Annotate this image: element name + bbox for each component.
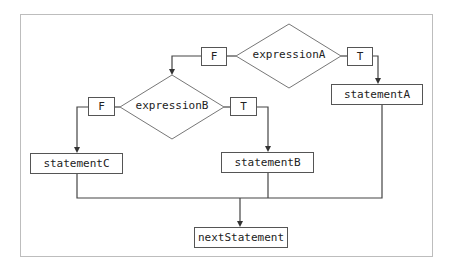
- statement-c-box: statementC: [30, 153, 123, 174]
- statement-b-box: statementB: [221, 152, 314, 173]
- flowchart-canvas: expressionA expressionB F T F T statemen…: [0, 0, 459, 266]
- false-label-a: F: [201, 47, 227, 66]
- arrow-head: [169, 69, 175, 75]
- true-label-b: T: [230, 97, 257, 116]
- expression-a-label: expressionA: [250, 48, 328, 61]
- true-label-a: T: [347, 47, 373, 66]
- false-label-b: F: [88, 97, 115, 116]
- next-statement-box: nextStatement: [194, 227, 288, 248]
- statement-a-box: statementA: [331, 84, 423, 105]
- expression-b-label: expressionB: [133, 99, 211, 112]
